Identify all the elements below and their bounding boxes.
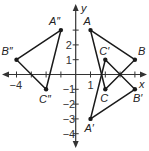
vertex-point bbox=[133, 58, 137, 62]
tick-labels: −4121−1−2−3−4 bbox=[10, 39, 94, 140]
vertex-point bbox=[59, 28, 63, 32]
x-axis-left-arrow-icon bbox=[2, 72, 9, 78]
triangle-A'B'C' bbox=[91, 60, 135, 119]
vertex-point bbox=[14, 58, 18, 62]
y-tick-label: 1 bbox=[66, 54, 72, 66]
y-tick-label: −3 bbox=[63, 113, 76, 125]
triangle-A''B''C'' bbox=[17, 30, 61, 89]
y-tick-label: −2 bbox=[63, 98, 76, 110]
vertex-label: A′ bbox=[84, 122, 95, 134]
y-axis-label: y bbox=[80, 2, 88, 14]
x-axis-right-arrow-icon bbox=[140, 72, 147, 78]
vertex-point bbox=[103, 58, 107, 62]
x-tick-label: −4 bbox=[10, 79, 23, 91]
y-tick-label: −1 bbox=[63, 83, 76, 95]
y-tick-label: −4 bbox=[63, 128, 76, 140]
x-tick-label: 1 bbox=[88, 79, 94, 91]
vertex-label: B bbox=[138, 45, 145, 57]
vertex-point bbox=[103, 87, 107, 91]
vertex-label: A bbox=[83, 15, 91, 27]
vertex-label: A″ bbox=[48, 15, 61, 27]
vertex-label: B″ bbox=[2, 45, 14, 57]
vertex-label: C bbox=[100, 92, 108, 104]
vertex-label: C′ bbox=[99, 45, 110, 57]
vertex-label: C″ bbox=[39, 93, 52, 105]
vertex-label: B′ bbox=[133, 92, 143, 104]
vertex-point bbox=[44, 87, 48, 91]
y-tick-label: 2 bbox=[66, 39, 72, 51]
vertex-point bbox=[88, 117, 92, 121]
axes bbox=[4, 6, 145, 146]
triangle-ABC bbox=[91, 30, 135, 89]
y-axis-down-arrow-icon bbox=[73, 141, 79, 148]
vertex-point bbox=[88, 28, 92, 32]
coordinate-plane: y x −4121−1−2−3−4 ABCA′B′C′A″B″C″ bbox=[0, 0, 149, 151]
vertex-point bbox=[133, 87, 137, 91]
y-axis-up-arrow-icon bbox=[73, 4, 79, 11]
x-axis-label: x bbox=[138, 78, 145, 90]
